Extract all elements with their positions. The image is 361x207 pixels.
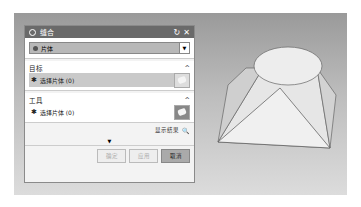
type-select[interactable]: 片体 ▼ bbox=[29, 42, 190, 54]
close-icon[interactable]: ✕ bbox=[183, 28, 190, 37]
select-body-button[interactable] bbox=[174, 73, 190, 88]
ok-button[interactable]: 确定 bbox=[97, 149, 126, 163]
dialog-titlebar[interactable]: 缝合 ↻ ✕ bbox=[25, 26, 194, 38]
required-icon: ✱ bbox=[31, 108, 37, 116]
gear-icon bbox=[29, 29, 36, 36]
show-result-label: 显示结果 bbox=[155, 126, 179, 134]
selection-label: 选择片体 (0) bbox=[40, 76, 171, 85]
sheet-icon bbox=[33, 46, 38, 51]
section-title: 目标 bbox=[29, 63, 43, 73]
show-result[interactable]: 显示结果 🔍 bbox=[25, 123, 194, 137]
apply-button[interactable]: 应用 bbox=[129, 149, 158, 163]
sew-dialog: 缝合 ↻ ✕ 片体 ▼ 目标 ^ ✱ 选择片体 (0) 工具 ^ ✱ 选择片体 … bbox=[24, 25, 195, 183]
required-icon: ✱ bbox=[31, 76, 37, 84]
sheet-icon bbox=[177, 108, 187, 116]
tool-section: 工具 ^ ✱ 选择片体 (0) bbox=[25, 93, 194, 123]
selection-label: 选择片体 (0) bbox=[40, 108, 171, 117]
frustum-model[interactable] bbox=[200, 20, 361, 190]
sheet-icon bbox=[177, 76, 187, 84]
target-section: 目标 ^ ✱ 选择片体 (0) bbox=[25, 61, 194, 91]
dialog-title: 缝合 bbox=[40, 27, 171, 37]
cancel-button[interactable]: 取消 bbox=[161, 149, 190, 163]
collapse-icon[interactable]: ^ bbox=[185, 96, 190, 104]
expand-more-icon[interactable]: ▼ bbox=[25, 137, 194, 146]
select-target-sheet[interactable]: ✱ 选择片体 (0) bbox=[29, 73, 190, 87]
chevron-down-icon[interactable]: ▼ bbox=[179, 43, 189, 53]
type-select-value: 片体 bbox=[41, 44, 53, 53]
reset-icon[interactable]: ↻ bbox=[174, 28, 181, 37]
select-tool-sheet[interactable]: ✱ 选择片体 (0) bbox=[29, 105, 190, 119]
section-title: 工具 bbox=[29, 95, 43, 105]
select-body-button[interactable] bbox=[174, 105, 190, 120]
collapse-icon[interactable]: ^ bbox=[185, 64, 190, 72]
magnifier-icon[interactable]: 🔍 bbox=[182, 127, 189, 134]
